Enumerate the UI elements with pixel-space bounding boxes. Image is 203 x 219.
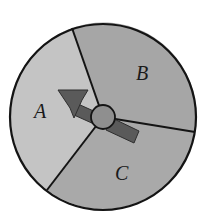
spinner-hub — [91, 105, 115, 129]
label-a: A — [32, 100, 47, 122]
label-c: C — [115, 162, 129, 184]
label-b: B — [136, 62, 148, 84]
spinner-diagram: A B C — [0, 0, 203, 219]
